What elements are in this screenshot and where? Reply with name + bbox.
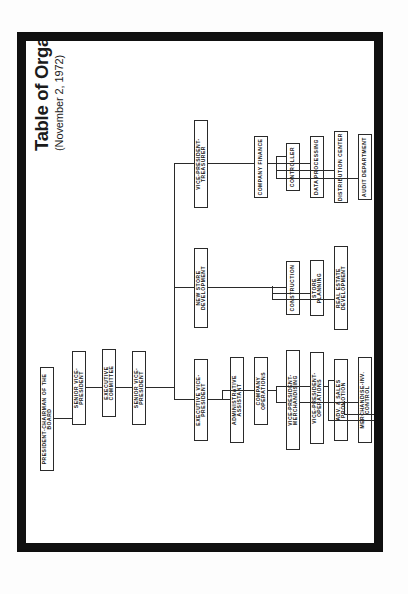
bus-vp-ops-children — [328, 381, 329, 421]
connector-cf-data-processing — [276, 163, 310, 164]
connector-vp-treasurer-company-finance — [208, 163, 254, 164]
node-adv-sales-promotion[interactable]: ADV. & SALES PROMOTION — [334, 359, 348, 441]
connector-svp1-exec-committee — [86, 387, 102, 388]
connector-exec-committee-svp2 — [116, 387, 132, 388]
connector-cf-controller — [276, 156, 286, 157]
node-senior-vice-president-1[interactable]: SENIOR VICE-PRESIDENT — [72, 351, 86, 425]
connector-president-svp1 — [54, 418, 72, 419]
org-chart: PRESIDENT-CHAIRMAN OF THE BOARD SENIOR V… — [26, 41, 372, 543]
bus-level5 — [174, 164, 175, 400]
connector-cf-distribution — [276, 170, 334, 171]
connector-vpo-adv-sales — [328, 380, 334, 381]
connector-vpm-personnel — [344, 414, 374, 415]
node-company-finance[interactable]: COMPANY FINANCE — [254, 136, 268, 198]
node-construction[interactable]: CONSTRUCTION — [286, 261, 300, 315]
bus-vp-merch-children — [344, 401, 345, 415]
node-vice-president-operations[interactable]: VICE-PRESIDENT-OPERATIONS — [310, 352, 324, 444]
connector-company-finance-drop — [268, 163, 276, 164]
connector-bus-evp — [174, 399, 194, 400]
connector-vpo-store-fixturing — [328, 420, 374, 421]
connector-bus-vp-treasurer — [174, 163, 194, 164]
node-data-processing[interactable]: DATA PROCESSING — [310, 136, 324, 198]
connector-evp-drop — [208, 399, 222, 400]
connector-new-store-dev-drop — [208, 287, 272, 288]
connector-vp-merch-drop — [300, 402, 344, 403]
node-store-planning[interactable]: STORE PLANNING — [310, 260, 324, 316]
node-senior-vice-president-2[interactable]: SENIOR VICE-PRESIDENT — [132, 351, 146, 425]
connector-nsd-store-planning — [272, 293, 310, 294]
node-vice-president-treasurer[interactable]: VICE-PRESIDENT-TREASURER — [194, 120, 208, 208]
connector-nsd-construction — [272, 287, 286, 288]
connector-bus-new-store-dev — [174, 287, 194, 288]
photo-frame: Table of Organization (November 2, 1972)… — [17, 32, 383, 552]
connector-vpm-merch-inv — [344, 402, 358, 403]
connector-cf-audit — [276, 178, 358, 179]
node-president[interactable]: PRESIDENT-CHAIRMAN OF THE BOARD — [40, 367, 54, 471]
node-real-estate-development[interactable]: REAL ESTATE DEVELOPMENT — [334, 246, 348, 330]
connector-company-ops-vp-merchandising — [276, 402, 286, 403]
node-executive-committee[interactable]: EXECUTIVE COMMITTEE — [102, 349, 116, 417]
connector-company-ops-drop — [268, 390, 276, 391]
chart-paper: Table of Organization (November 2, 1972)… — [26, 41, 374, 543]
node-vice-president-merchandising[interactable]: VICE-PRESIDENT-MERCHANDISING — [286, 350, 300, 450]
node-controller[interactable]: CONTROLLER — [286, 143, 300, 191]
connector-evp-company-operations — [222, 390, 254, 391]
node-executive-vice-president[interactable]: EXECUTIVE VICE-PRESIDENT — [194, 359, 208, 441]
node-merchandise-inventory-control[interactable]: MERCHANDISE-INV. CONTROL — [358, 357, 372, 443]
connector-company-ops-vp-operations — [276, 386, 310, 387]
connector-svp2-drop — [146, 387, 174, 388]
node-company-operations[interactable]: COMPANY OPERATIONS — [254, 357, 268, 425]
node-administrative-assistant[interactable]: ADMINISTRATIVE ASSISTANT — [230, 357, 244, 443]
node-new-store-development[interactable]: NEW STORE DEVELOPMENT — [194, 248, 208, 328]
bus-company-ops-children — [276, 387, 277, 403]
node-distribution-center[interactable]: DISTRIBUTION CENTER — [334, 131, 348, 203]
bus-company-finance-children — [276, 157, 277, 179]
node-audit-department[interactable]: AUDIT DEPARTMENT — [358, 134, 372, 200]
connector-evp-admin-assistant — [222, 399, 230, 400]
connector-nsd-real-estate — [272, 299, 334, 300]
